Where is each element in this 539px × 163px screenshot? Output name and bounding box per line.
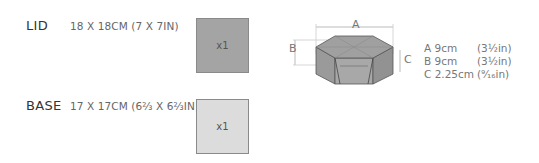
- lid-swatch: x1: [196, 18, 249, 73]
- base-quantity: x1: [216, 121, 228, 132]
- dimension-a: A 9cm (3½in): [424, 42, 534, 54]
- dimension-b-metric: B 9cm: [424, 55, 457, 67]
- dimension-b: B 9cm (3½in): [424, 55, 534, 67]
- base-label: BASE: [26, 98, 61, 113]
- dimension-c: C 2.25cm (⁹⁄₁₆in): [424, 68, 534, 80]
- dimension-a-imperial: (3½in): [477, 42, 512, 54]
- lid-quantity: x1: [216, 40, 228, 51]
- base-size: 17 X 17CM (6⅔ X 6⅔IN): [70, 100, 199, 112]
- lid-size: 18 X 18CM (7 X 7IN): [70, 20, 179, 32]
- dimension-b-imperial: (3½in): [477, 55, 512, 67]
- dimension-c-imperial: (⁹⁄₁₆in): [477, 68, 509, 80]
- diagram-label-c: C: [404, 53, 412, 66]
- diagram-label-a: A: [352, 18, 360, 31]
- hexagon-box-diagram: [285, 18, 410, 88]
- lid-label: LID: [26, 18, 48, 33]
- diagram-label-b: B: [289, 42, 297, 55]
- dimension-c-metric: C 2.25cm: [424, 68, 474, 80]
- base-swatch: x1: [196, 99, 249, 154]
- dimension-a-metric: A 9cm: [424, 42, 457, 54]
